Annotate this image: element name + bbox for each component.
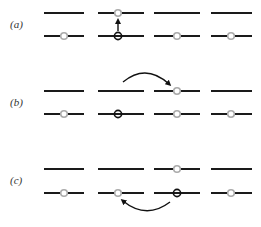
site-4 <box>211 13 252 39</box>
electron-icon <box>228 33 235 40</box>
electron-icon <box>174 111 181 118</box>
panel-label: (b) <box>10 96 23 109</box>
hop-arrow-icon <box>123 73 169 84</box>
electron-icon <box>174 88 181 95</box>
site-3 <box>154 13 200 39</box>
energy-level-hopping-diagram: (a)(b)(c) <box>0 0 261 227</box>
site-3 <box>154 88 200 118</box>
site-1 <box>44 13 84 39</box>
panel-c: (c) <box>10 166 252 211</box>
site-2 <box>98 91 144 118</box>
site-2 <box>98 169 144 196</box>
hop-arrow-icon <box>123 201 170 211</box>
electron-icon <box>115 190 122 197</box>
site-1 <box>44 91 84 117</box>
site-3 <box>154 166 200 197</box>
panel-b: (b) <box>10 73 252 118</box>
electron-icon <box>61 111 68 118</box>
site-1 <box>44 169 84 196</box>
electron-icon <box>174 166 181 173</box>
electron-icon <box>61 190 68 197</box>
panel-label: (a) <box>10 18 23 31</box>
panel-a: (a) <box>10 10 252 40</box>
electron-icon <box>174 33 181 40</box>
panel-label: (c) <box>10 174 23 187</box>
site-4 <box>211 91 252 117</box>
electron-icon <box>61 33 68 40</box>
site-4 <box>211 169 252 196</box>
electron-icon <box>228 190 235 197</box>
electron-icon <box>115 10 122 17</box>
site-2 <box>98 10 144 40</box>
electron-icon <box>228 111 235 118</box>
